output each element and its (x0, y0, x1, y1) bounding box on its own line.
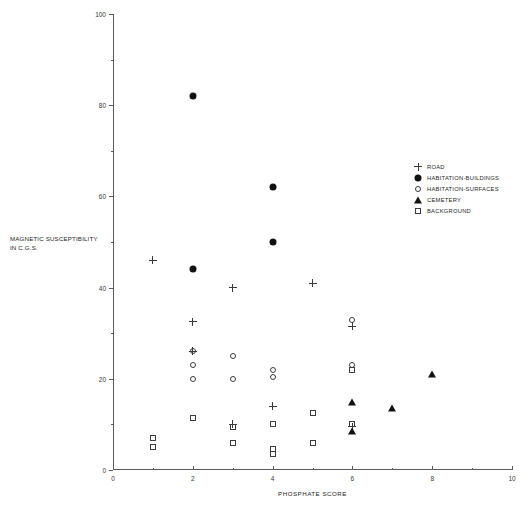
legend-filled-triangle-icon (413, 194, 427, 205)
data-point-habitation-surfaces (270, 367, 276, 373)
scatter-plot-figure: MAGNETIC SUSCEPTIBILITY IN C.G.S. 020406… (0, 0, 528, 511)
x-tick-label: 4 (271, 475, 275, 482)
y-tick-label: 20 (99, 375, 106, 382)
x-tick-minor (153, 468, 154, 470)
x-tick (512, 466, 513, 470)
data-point-habitation-surfaces (349, 317, 355, 323)
data-point-habitation-buildings (189, 266, 196, 273)
data-point-habitation-surfaces (270, 374, 276, 380)
data-point-background (230, 440, 236, 446)
data-point-habitation-surfaces (190, 376, 196, 382)
data-point-background (270, 421, 276, 427)
y-tick-minor (111, 60, 113, 61)
data-point-background (150, 444, 156, 450)
y-tick-minor (111, 424, 113, 425)
y-axis-title-line2: IN C.G.S. (10, 243, 106, 252)
y-tick-minor (111, 242, 113, 243)
legend-filled-circle-icon (413, 172, 427, 183)
data-point-background (310, 440, 316, 446)
x-tick-minor (392, 468, 393, 470)
x-axis-title: PHOSPHATE SCORE (113, 490, 512, 497)
data-point-habitation-surfaces (230, 353, 236, 359)
x-tick (273, 466, 274, 470)
x-tick-label: 8 (430, 475, 434, 482)
legend: ROADHABITATION-BUILDINGSHABITATION-SURFA… (413, 161, 525, 216)
y-tick-label: 40 (99, 284, 106, 291)
legend-plus-icon (413, 161, 427, 172)
x-tick-label: 10 (508, 475, 515, 482)
legend-item[interactable]: ROAD (413, 161, 525, 172)
y-tick-minor (111, 151, 113, 152)
y-axis-title-line1: MAGNETIC SUSCEPTIBILITY (10, 234, 106, 243)
data-point-cemetery (348, 428, 356, 435)
x-tick-minor (313, 468, 314, 470)
x-tick (113, 466, 114, 470)
data-point-habitation-buildings (189, 93, 196, 100)
y-tick (109, 14, 113, 15)
data-point-habitation-buildings (269, 239, 276, 246)
data-point-cemetery (388, 405, 396, 412)
plot-area: 020406080100 0246810 PHOSPHATE SCORE (113, 14, 512, 470)
legend-item-label: BACKGROUND (427, 208, 471, 214)
data-point-cemetery (428, 371, 436, 378)
data-point-background (230, 424, 236, 430)
x-tick-minor (233, 468, 234, 470)
x-tick-label: 0 (111, 475, 115, 482)
legend-item-label: ROAD (427, 164, 445, 170)
legend-item[interactable]: CEMETERY (413, 194, 525, 205)
y-axis-title: MAGNETIC SUSCEPTIBILITY IN C.G.S. (10, 234, 106, 252)
legend-item[interactable]: HABITATION-BUILDINGS (413, 172, 525, 183)
data-point-habitation-buildings (269, 184, 276, 191)
x-tick-minor (472, 468, 473, 470)
legend-item-label: HABITATION-SURFACES (427, 186, 499, 192)
y-tick (109, 105, 113, 106)
legend-item-label: CEMETERY (427, 197, 461, 203)
data-point-background (349, 421, 355, 427)
y-tick-label: 80 (99, 102, 106, 109)
y-tick (109, 288, 113, 289)
data-point-background (190, 415, 196, 421)
y-tick (109, 196, 113, 197)
data-point-background (270, 451, 276, 457)
data-point-road (189, 318, 197, 326)
x-tick (193, 466, 194, 470)
data-point-habitation-surfaces (190, 362, 196, 368)
data-point-road (229, 284, 237, 292)
x-tick (352, 466, 353, 470)
legend-open-circle-icon (413, 183, 427, 194)
x-tick (432, 466, 433, 470)
legend-item-label: HABITATION-BUILDINGS (427, 175, 499, 181)
data-point-road (269, 402, 277, 410)
y-tick-label: 100 (95, 11, 106, 18)
data-point-background (150, 435, 156, 441)
y-tick-minor (111, 333, 113, 334)
legend-open-square-icon (413, 205, 427, 216)
y-tick (109, 470, 113, 471)
data-point-background (349, 367, 355, 373)
y-tick-label: 60 (99, 193, 106, 200)
data-point-background (310, 410, 316, 416)
legend-item[interactable]: HABITATION-SURFACES (413, 183, 525, 194)
x-tick-label: 6 (351, 475, 355, 482)
y-tick-label: 0 (102, 467, 106, 474)
x-tick-label: 2 (191, 475, 195, 482)
data-point-habitation-surfaces (230, 376, 236, 382)
data-point-habitation-surfaces (190, 348, 196, 354)
legend-item[interactable]: BACKGROUND (413, 205, 525, 216)
y-tick (109, 379, 113, 380)
data-point-road (309, 279, 317, 287)
y-axis-line (113, 14, 114, 470)
data-point-road (149, 256, 157, 264)
data-point-cemetery (348, 398, 356, 405)
data-point-road (348, 322, 356, 330)
